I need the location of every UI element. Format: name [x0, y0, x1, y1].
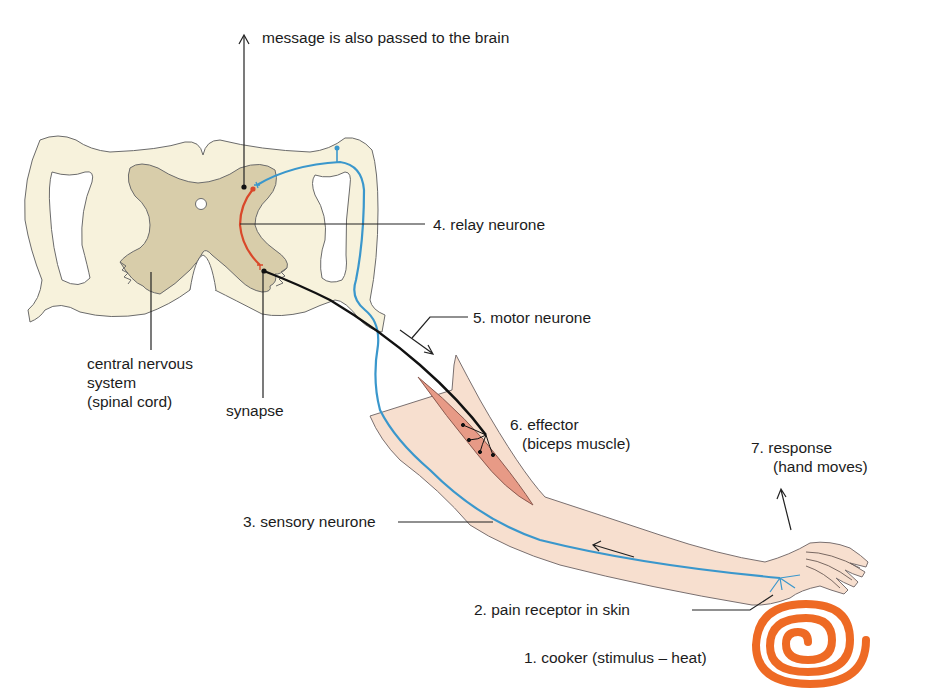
response-label-line1: 7. response	[751, 438, 868, 457]
brain-message-label: message is also passed to the brain	[262, 28, 509, 47]
effector-label: 6. effector (biceps muscle)	[510, 415, 631, 453]
effector-label-line1: 6. effector	[510, 415, 631, 434]
stimulus-label: 1. cooker (stimulus – heat)	[524, 648, 707, 667]
response-label: 7. response (hand moves)	[751, 438, 868, 476]
pain-receptor-label: 2. pain receptor in skin	[474, 600, 630, 619]
synapse-label: synapse	[226, 401, 284, 420]
arm	[370, 355, 868, 605]
central-canal	[196, 199, 207, 210]
reflex-arc-diagram	[0, 0, 927, 695]
sensory-neurone-label: 3. sensory neurone	[243, 512, 376, 531]
cns-label-line1: central nervous	[87, 354, 193, 373]
cns-label: central nervous system (spinal cord)	[87, 354, 193, 411]
motor-neurone-label: 5. motor neurone	[473, 308, 591, 327]
arm-skin	[370, 355, 868, 605]
spinal-cord-cross-section	[25, 136, 385, 332]
response-label-line2: (hand moves)	[751, 457, 868, 476]
effector-label-line2: (biceps muscle)	[510, 434, 631, 453]
cns-label-line2: system	[87, 373, 193, 392]
cooker-spiral-icon	[756, 604, 866, 684]
cns-label-line3: (spinal cord)	[87, 392, 193, 411]
relay-neurone-label: 4. relay neurone	[433, 215, 545, 234]
